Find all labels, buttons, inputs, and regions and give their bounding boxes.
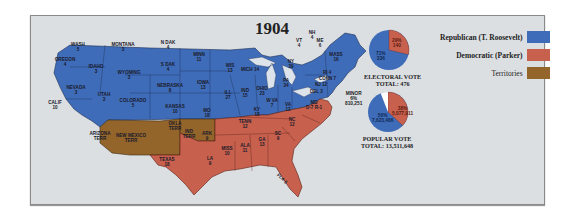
state-label-calif: CALIF10 bbox=[48, 100, 62, 110]
state-label-nj: NJ 12 bbox=[315, 82, 327, 87]
state-label-ind: IND15 bbox=[241, 88, 249, 98]
electoral-vote-caption: ELECTORAL VOTETOTAL: 476 bbox=[364, 73, 421, 87]
state-label-conn: CONN 7 bbox=[319, 76, 336, 81]
state-label-pa: PA34 bbox=[283, 78, 289, 88]
state-label-nevada: NEVADA3 bbox=[66, 85, 85, 95]
territory-label-arizona: ARIZONATERR bbox=[90, 131, 111, 141]
democratic-swatch bbox=[527, 49, 550, 61]
electoral-rep-label: 71%336 bbox=[376, 51, 386, 61]
state-label-la: LA9 bbox=[207, 156, 213, 166]
state-label-nc: NC12 bbox=[289, 117, 296, 127]
state-label-ny: NY39 bbox=[288, 59, 294, 69]
state-label-mich: MICH 14 bbox=[241, 67, 259, 72]
republican-swatch bbox=[527, 31, 550, 43]
popular-vote-caption: POPULAR VOTETOTAL: 13,511,648 bbox=[361, 135, 413, 149]
state-label-me: ME6 bbox=[317, 38, 324, 48]
state-label-sc: SC9 bbox=[275, 131, 281, 141]
state-label-del: DEL 3 bbox=[310, 89, 323, 94]
popular-minor-label: MINOR6%810,251 bbox=[345, 91, 362, 106]
state-label-oregon: OREGON4 bbox=[55, 57, 75, 67]
state-label-montana: MONTANA3 bbox=[111, 42, 134, 52]
electoral-vote-pie bbox=[368, 29, 410, 71]
electoral-dem-label: 29%140 bbox=[392, 38, 402, 48]
state-label-ill: ILL27 bbox=[225, 90, 232, 100]
state-label-minn: MINN11 bbox=[193, 52, 205, 62]
state-label-texas: TEXAS18 bbox=[159, 157, 174, 167]
state-label-wyoming: WYOMING3 bbox=[118, 70, 141, 80]
state-label-kansas: KANSAS10 bbox=[165, 104, 184, 114]
map-title: 1904 bbox=[255, 19, 289, 39]
legend: Republican (T. Roosevelt) Democratic (Pa… bbox=[440, 29, 550, 83]
legend-item-republican: Republican (T. Roosevelt) bbox=[440, 29, 550, 45]
state-label-wva: W VA7 bbox=[266, 98, 278, 108]
state-label-ri: RI 4 bbox=[323, 70, 331, 75]
popular-rep-label: 56%7,623,486 bbox=[372, 113, 393, 123]
state-label-ga: GA13 bbox=[259, 137, 266, 147]
territory-label-ind: INDTERR bbox=[183, 129, 196, 139]
legend-item-democratic: Democratic (Parker) bbox=[440, 47, 550, 63]
state-label-nebraska: NEBRASKA8 bbox=[157, 83, 183, 93]
popular-dem-label: 38%5,077,911 bbox=[392, 106, 413, 116]
state-label-ndak: N DAK4 bbox=[161, 40, 176, 50]
territory-label-new-mexico: NEW MEXICOTERR bbox=[116, 133, 146, 143]
state-label-ohio: OHIO23 bbox=[256, 86, 268, 96]
state-label-miss: MISS10 bbox=[221, 146, 232, 156]
state-label-sdak: S DAK4 bbox=[161, 62, 175, 72]
state-label-ky: KY13 bbox=[254, 107, 260, 117]
state-label-wis: WIS13 bbox=[226, 63, 235, 73]
state-label-colorado: COLORADO5 bbox=[120, 98, 147, 108]
state-label-md: MDD-7 R-1 bbox=[306, 100, 322, 110]
legend-item-territories: Territories bbox=[440, 65, 550, 81]
state-label-ark: ARK9 bbox=[202, 131, 212, 141]
state-label-wash: WASH5 bbox=[71, 42, 85, 52]
territories-swatch bbox=[527, 67, 550, 79]
state-label-mo: MO18 bbox=[203, 108, 210, 118]
state-label-idaho: IDAHO3 bbox=[89, 64, 104, 74]
state-label-iowa: IOWA13 bbox=[197, 80, 209, 90]
state-label-va: VA12 bbox=[285, 102, 291, 112]
state-label-vt: VT4 bbox=[296, 38, 302, 48]
state-label-tenn: TENN12 bbox=[239, 119, 252, 129]
territory-label-okla: OKLATERR bbox=[168, 121, 181, 131]
state-label-utah: UTAH3 bbox=[98, 92, 110, 102]
state-label-ala: ALA11 bbox=[240, 143, 249, 153]
state-label-nh: NH4 bbox=[309, 30, 316, 40]
state-label-mass: MASS16 bbox=[329, 52, 342, 62]
